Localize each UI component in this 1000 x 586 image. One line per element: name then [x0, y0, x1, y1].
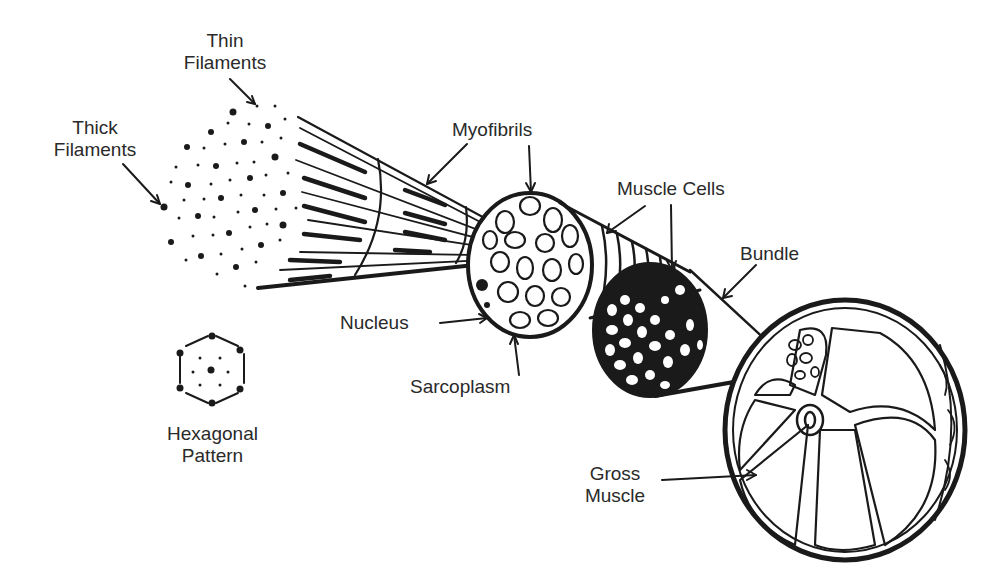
hexagonal-pattern-figure [177, 333, 245, 407]
label-nucleus: Nucleus [340, 312, 409, 334]
label-bundle: Bundle [740, 243, 799, 265]
label-muscle-cells: Muscle Cells [617, 178, 725, 200]
label-thick-filaments: Thick Filaments [30, 117, 160, 161]
myofibril-disc [468, 193, 592, 337]
label-hexagonal-pattern: Hexagonal Pattern [150, 423, 275, 467]
label-thin-filaments: Thin Filaments [150, 30, 300, 74]
label-sarcoplasm: Sarcoplasm [410, 376, 510, 398]
gross-muscle-disc [725, 300, 965, 560]
muscle-diagram-art [0, 0, 1000, 586]
label-myofibrils: Myofibrils [452, 119, 532, 141]
label-gross-muscle: Gross Muscle [570, 463, 660, 507]
bundle-disc [594, 264, 706, 396]
filament-dot-field [161, 105, 298, 288]
